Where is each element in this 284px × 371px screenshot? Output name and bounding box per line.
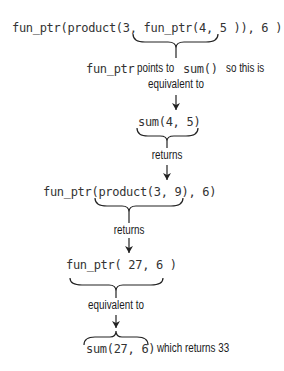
brace-3 [95,198,183,212]
brace-1 [133,34,218,48]
brace-4 [70,278,163,291]
brace-2 [137,128,198,141]
diagram-connectors [0,0,284,371]
brace-5 [84,331,148,345]
